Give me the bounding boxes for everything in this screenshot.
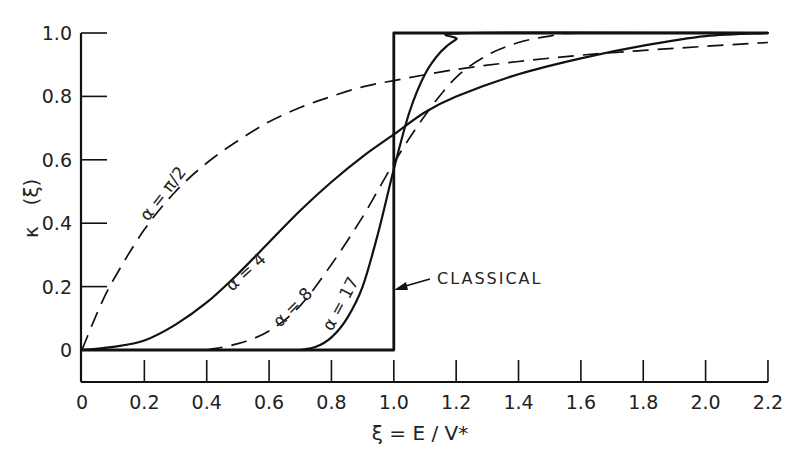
curves: [82, 33, 768, 350]
curve-classical: [82, 33, 768, 350]
classical-arrow: [394, 279, 430, 290]
x-tick-label: 0.6: [254, 391, 284, 413]
y-tick-label: 1.0: [42, 22, 72, 44]
y-axis-title: κ (ξ): [19, 179, 43, 238]
label-alpha-4: α = 4: [221, 249, 269, 295]
x-tick-label: 1.2: [441, 391, 471, 413]
x-tick-label: 1.0: [379, 391, 409, 413]
x-tick-label: 0.8: [316, 391, 346, 413]
y-tick-label: 0.4: [42, 212, 72, 234]
x-tick-label: 1.8: [628, 391, 658, 413]
y-tick-label: 0.8: [42, 85, 72, 107]
label-alpha-8: α = 8: [269, 283, 316, 330]
y-tick-label: 0.2: [42, 276, 72, 298]
x-tick-label: 1.6: [566, 391, 596, 413]
x-tick-label: 2.2: [753, 391, 783, 413]
x-tick-label: 0: [76, 391, 88, 413]
x-tick-label: 0.2: [129, 391, 159, 413]
curve-17: [300, 33, 768, 350]
y-tick-label: 0: [60, 339, 72, 361]
x-axis-title: ξ = E / V*: [372, 421, 468, 445]
x-tick-label: 0.4: [192, 391, 222, 413]
y-tick-label: 0.6: [42, 149, 72, 171]
curve-4: [82, 33, 768, 350]
label-classical: CLASSICAL: [437, 269, 542, 288]
y-axis-title-arg: (ξ): [19, 179, 43, 206]
x-tick-label: 2.0: [690, 391, 720, 413]
curve-2: [82, 43, 768, 350]
label-alpha-pi-over-2: α = π/2: [135, 162, 190, 224]
x-tick-label: 1.4: [503, 391, 533, 413]
transmission-coefficient-chart: 00.20.40.60.81.000.20.40.60.81.01.21.41.…: [0, 0, 799, 456]
y-axis-title-kappa: κ: [19, 226, 43, 238]
